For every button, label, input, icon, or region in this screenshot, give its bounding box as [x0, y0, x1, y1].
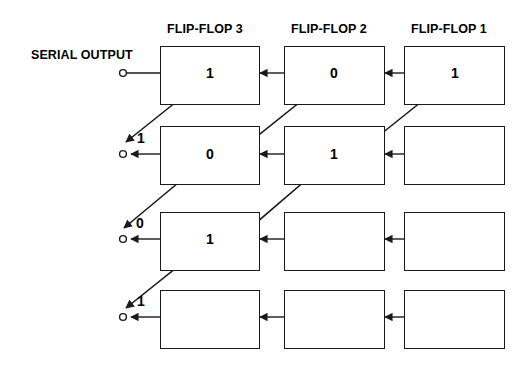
column-header-flip-flop-1: FLIP-FLOP 1	[411, 22, 487, 36]
serial-output-lead-row-2	[120, 151, 160, 158]
column-header-flip-flop-2: FLIP-FLOP 2	[291, 22, 367, 36]
cell-box-row2-ff1	[404, 126, 505, 185]
cell-value-row2-ff2: 1	[322, 146, 346, 162]
cell-box-row4-ff1	[404, 290, 505, 349]
cell-value-row1-ff2: 0	[322, 65, 346, 81]
cell-value-row3-ff3: 1	[198, 231, 222, 247]
serial-output-value-row-2: 1	[134, 130, 148, 146]
column-header-flip-flop-3: FLIP-FLOP 3	[167, 22, 243, 36]
cell-value-row1-ff3: 1	[198, 65, 222, 81]
serial-output-lead-row-3	[120, 236, 160, 243]
cell-box-row3-ff2	[284, 212, 385, 271]
cell-box-row4-ff3	[160, 290, 260, 349]
serial-output-lead-row-4	[120, 314, 160, 321]
cell-value-row2-ff3: 0	[198, 146, 222, 162]
serial-output-value-row-3: 0	[133, 215, 147, 231]
serial-output-label: SERIAL OUTPUT	[31, 48, 133, 62]
serial-output-value-row-4: 1	[134, 293, 148, 309]
cell-value-row1-ff1: 1	[443, 65, 467, 81]
cell-box-row4-ff2	[284, 290, 385, 349]
cell-box-row3-ff1	[404, 212, 505, 271]
serial-output-lead-row-1	[120, 70, 160, 77]
